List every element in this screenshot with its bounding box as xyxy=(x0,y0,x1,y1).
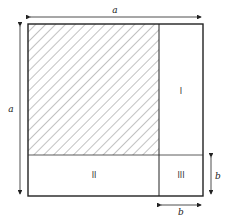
left-dimension-label: a xyxy=(8,104,13,114)
top-dimension-label: a xyxy=(112,5,117,15)
region-II-label: II xyxy=(92,171,97,180)
square-decomposition-diagram: a a b b I II III xyxy=(0,0,230,222)
right-dimension-label: b xyxy=(215,171,221,181)
shaded-square-region xyxy=(28,24,159,155)
region-I-label: I xyxy=(180,87,182,96)
region-III-label: III xyxy=(177,171,184,180)
bottom-dimension-label: b xyxy=(178,207,184,217)
